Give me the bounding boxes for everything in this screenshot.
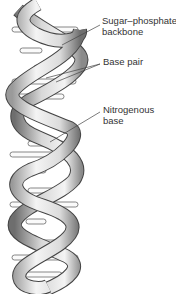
dna-helix — [0, 0, 176, 294]
label-base-pair: Base pair — [103, 56, 143, 67]
label-sugar-phosphate-backbone: Sugar–phosphate backbone — [102, 15, 176, 37]
label-nitrogenous-base: Nitrogenous base — [103, 104, 154, 126]
